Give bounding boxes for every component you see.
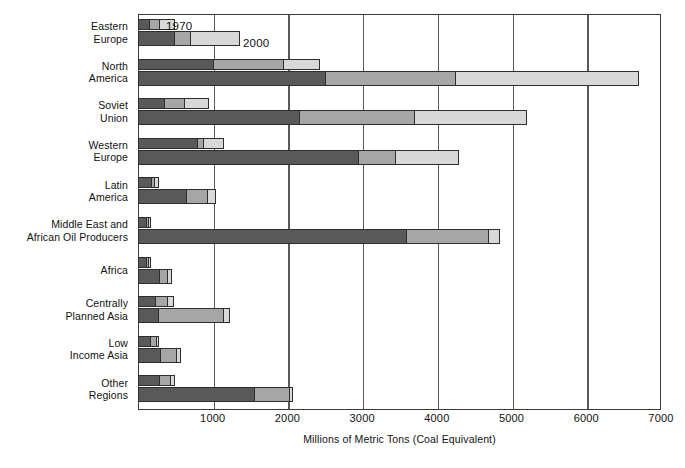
bar-2000 — [138, 387, 293, 402]
bar-1970 — [138, 138, 224, 149]
category-label: Centrally Planned Asia — [0, 297, 128, 322]
bar-segment-3 — [170, 376, 174, 385]
bar-segment-3 — [455, 72, 637, 85]
category-label: Latin America — [0, 179, 128, 204]
bar-segment-1 — [139, 218, 146, 227]
bar-segment-3 — [207, 190, 215, 203]
bar-segment-1 — [139, 388, 254, 401]
category-label: Other Regions — [0, 377, 128, 402]
bar-segment-3 — [203, 139, 223, 148]
bar-segment-2 — [325, 72, 455, 85]
bar-segment-1 — [139, 139, 197, 148]
category-axis-labels: Eastern EuropeNorth AmericaSoviet UnionW… — [0, 14, 134, 410]
bar-segment-2 — [159, 376, 170, 385]
bar-segment-2 — [164, 99, 184, 108]
bar-segment-3 — [167, 297, 173, 306]
bar-segment-3 — [414, 111, 526, 124]
bar-segment-2 — [160, 349, 176, 362]
x-tick-label: 3000 — [350, 412, 375, 424]
x-axis-title: Millions of Metric Tons (Coal Equivalent… — [138, 433, 661, 445]
bar-segment-3 — [156, 337, 158, 346]
bar-segment-1 — [139, 151, 358, 164]
bar-segment-1 — [139, 258, 146, 267]
x-axis-ticks: 1000200030004000500060007000 — [0, 412, 685, 430]
series-label-2000: 2000 — [243, 37, 269, 49]
bar-segment-2 — [158, 309, 223, 322]
bar-segment-3 — [190, 32, 239, 45]
bar-segment-1 — [139, 111, 299, 124]
bar-segment-3 — [148, 218, 150, 227]
bar-segment-2 — [174, 32, 190, 45]
x-tick-label: 6000 — [574, 412, 599, 424]
category-label: Western Europe — [0, 139, 128, 164]
bar-segment-1 — [139, 32, 174, 45]
bar-2000 — [138, 348, 181, 363]
bar-segment-3 — [488, 230, 499, 243]
bars-layer — [138, 14, 661, 410]
bar-segment-2 — [149, 20, 160, 29]
bar-segment-2 — [155, 297, 167, 306]
bar-segment-3 — [167, 270, 171, 283]
bar-segment-2 — [213, 60, 283, 69]
bar-2000 — [138, 308, 230, 323]
bar-segment-2 — [299, 111, 414, 124]
bar-segment-3 — [148, 258, 150, 267]
bar-segment-3 — [176, 349, 180, 362]
bar-segment-1 — [139, 376, 159, 385]
x-tick-label: 5000 — [499, 412, 524, 424]
bar-2000 — [138, 269, 172, 284]
bar-1970 — [138, 217, 151, 228]
bar-segment-1 — [139, 20, 149, 29]
bar-segment-3 — [184, 99, 208, 108]
category-label: North America — [0, 60, 128, 85]
bar-segment-3 — [223, 309, 229, 322]
bar-2000 — [138, 150, 459, 165]
x-tick-label: 2000 — [275, 412, 300, 424]
bar-segment-1 — [139, 349, 160, 362]
bar-segment-2 — [159, 270, 167, 283]
bar-segment-3 — [289, 388, 293, 401]
bar-1970 — [138, 375, 175, 386]
bar-segment-3 — [283, 60, 318, 69]
bar-2000 — [138, 31, 240, 46]
bar-segment-1 — [139, 230, 406, 243]
bar-2000 — [138, 189, 216, 204]
x-tick-label: 4000 — [424, 412, 449, 424]
bar-2000 — [138, 71, 639, 86]
bar-1970 — [138, 296, 174, 307]
bar-segment-3 — [154, 178, 157, 187]
bar-segment-1 — [139, 190, 186, 203]
bar-segment-1 — [139, 72, 325, 85]
bar-1970 — [138, 59, 320, 70]
category-label: Africa — [0, 264, 128, 276]
bar-segment-1 — [139, 178, 151, 187]
x-tick-label: 7000 — [648, 412, 673, 424]
bar-2000 — [138, 110, 527, 125]
category-label: Low Income Asia — [0, 337, 128, 362]
bar-1970 — [138, 177, 159, 188]
bar-1970 — [138, 98, 209, 109]
stacked-bar-chart: Eastern EuropeNorth AmericaSoviet UnionW… — [0, 0, 685, 468]
bar-1970 — [138, 257, 151, 268]
bar-segment-2 — [186, 190, 206, 203]
bar-segment-1 — [139, 337, 150, 346]
category-label: Middle East and African Oil Producers — [0, 218, 128, 243]
category-label: Soviet Union — [0, 99, 128, 124]
bar-segment-3 — [395, 151, 458, 164]
bar-segment-1 — [139, 60, 213, 69]
bar-segment-1 — [139, 270, 159, 283]
bar-segment-1 — [139, 309, 158, 322]
bar-1970 — [138, 336, 159, 347]
bar-2000 — [138, 229, 500, 244]
category-label: Eastern Europe — [0, 20, 128, 45]
bar-segment-1 — [139, 99, 164, 108]
bar-segment-2 — [254, 388, 289, 401]
bar-segment-1 — [139, 297, 155, 306]
x-tick-label: 1000 — [200, 412, 225, 424]
series-label-1970: 1970 — [166, 20, 192, 32]
bar-segment-2 — [406, 230, 488, 243]
bar-segment-2 — [358, 151, 395, 164]
